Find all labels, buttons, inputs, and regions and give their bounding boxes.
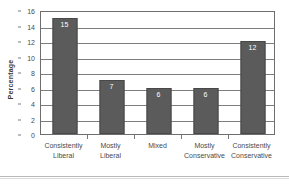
bar-slot: 12 xyxy=(229,12,276,134)
plot-area: 1576612 xyxy=(40,11,275,135)
x-axis-tick-mark xyxy=(87,135,88,139)
y-axis-tick-mark xyxy=(18,88,21,89)
x-axis-tick-mark xyxy=(134,135,135,139)
bars-layer: 1576612 xyxy=(41,12,274,134)
y-axis-tick-mark xyxy=(18,26,21,27)
y-axis-tick-label: 6 xyxy=(31,85,35,92)
y-axis-tick-label: 0 xyxy=(31,132,35,139)
y-axis-tick-mark xyxy=(18,42,21,43)
bar-slot: 6 xyxy=(182,12,229,134)
y-axis-tick-mark xyxy=(18,135,21,136)
y-axis-tick-mark xyxy=(18,57,21,58)
bar[interactable]: 6 xyxy=(146,88,171,135)
y-axis-tick-label: 12 xyxy=(27,39,35,46)
x-axis-tick-marks xyxy=(40,135,275,139)
bar[interactable]: 15 xyxy=(52,18,77,134)
y-axis-tick-mark xyxy=(18,119,21,120)
bar-chart-figure: Percentage 0246810121416 1576612 Consist… xyxy=(0,0,289,184)
bar-slot: 15 xyxy=(41,12,88,134)
bar[interactable]: 6 xyxy=(193,88,218,135)
y-axis-tick-mark xyxy=(18,73,21,74)
bar-slot: 7 xyxy=(88,12,135,134)
y-axis-tick-label: 16 xyxy=(27,8,35,15)
figure-bottom-divider xyxy=(0,176,289,177)
y-axis-title-text: Percentage xyxy=(8,59,15,99)
y-axis-tick-label: 10 xyxy=(27,54,35,61)
y-axis-tick-labels: 0246810121416 xyxy=(18,11,37,135)
x-axis-tick-mark xyxy=(228,135,229,139)
y-axis-tick-label: 2 xyxy=(31,116,35,123)
bar-value-label: 6 xyxy=(147,91,170,99)
y-axis-tick-label: 8 xyxy=(31,70,35,77)
y-axis-tick-mark xyxy=(18,104,21,105)
bar-value-label: 6 xyxy=(194,91,217,99)
x-axis-tick-labels: Consistently LiberalMostly LiberalMixedM… xyxy=(36,141,281,171)
y-axis-tick-label: 4 xyxy=(31,101,35,108)
x-axis-tick-label: Consistently Conservative xyxy=(224,141,279,160)
bar-value-label: 7 xyxy=(100,83,123,91)
bar[interactable]: 12 xyxy=(240,41,265,134)
bar-slot: 6 xyxy=(135,12,182,134)
y-axis-tick-label: 14 xyxy=(27,23,35,30)
x-axis-tick-mark xyxy=(181,135,182,139)
bar-value-label: 12 xyxy=(241,44,264,52)
figure-bottom-divider-secondary xyxy=(0,178,289,179)
y-axis-tick-mark xyxy=(18,11,21,12)
bar-value-label: 15 xyxy=(53,21,76,29)
bar[interactable]: 7 xyxy=(99,80,124,134)
